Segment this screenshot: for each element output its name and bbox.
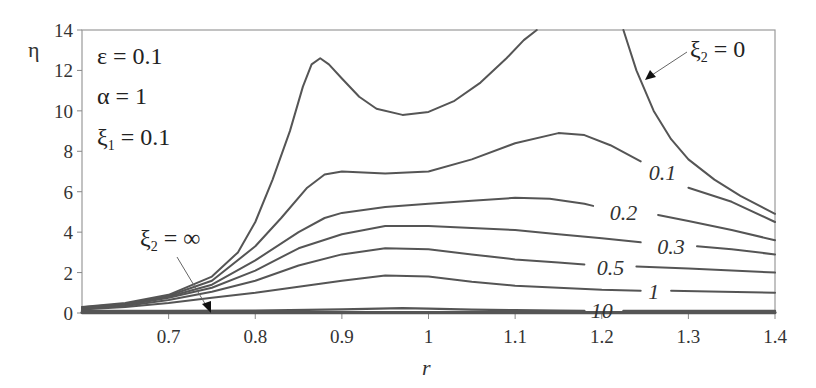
curve-label-1: 1: [648, 279, 659, 304]
curve-label-0.2: 0.2: [610, 200, 638, 225]
curve-label-0.1: 0.1: [649, 160, 677, 185]
chart: 02468101214 0.70.80.911.11.21.31.4 0.10.…: [0, 0, 816, 388]
curve-label-0.5: 0.5: [597, 255, 625, 280]
annot-zero-subscript: 2: [701, 50, 708, 65]
svg-text:ξ2 = ∞: ξ2 = ∞: [140, 225, 200, 254]
y-tick-label: 2: [64, 263, 74, 284]
x-tick-label: 1.1: [503, 326, 527, 347]
x-tick-label: 0.9: [330, 326, 354, 347]
x-tick-label: 0.7: [157, 326, 181, 347]
annot-inf-value: = ∞: [158, 225, 201, 251]
annot-zero-value: = 0: [708, 36, 746, 62]
x-tick-label: 0.8: [243, 326, 267, 347]
annot-inf-subscript: 2: [151, 239, 158, 254]
y-axis-label: η: [28, 37, 40, 62]
annot-inf-symbol: ξ: [140, 225, 151, 251]
y-tick-label: 8: [64, 141, 74, 162]
param-xi1-subscript: 1: [108, 138, 115, 153]
x-tick-label: 1: [424, 326, 434, 347]
y-tick-label: 12: [54, 60, 73, 81]
y-tick-label: 4: [64, 222, 74, 243]
param-xi1-value: = 0.1: [115, 124, 171, 150]
x-tick-label: 1.2: [590, 326, 614, 347]
y-tick-label: 14: [54, 20, 74, 41]
annot-zero-symbol: ξ: [690, 36, 701, 62]
annot-zero-arrow-line: [652, 52, 687, 75]
param-xi1: ξ1 = 0.1: [97, 124, 170, 153]
param-xi1-symbol: ξ: [97, 124, 108, 150]
param-epsilon: ε = 0.1: [97, 43, 163, 69]
y-tick-label: 6: [64, 182, 74, 203]
y-tick-label: 0: [64, 303, 74, 324]
svg-text:ξ2 = 0: ξ2 = 0: [690, 36, 745, 65]
x-tick-label: 1.4: [763, 326, 787, 347]
x-axis-label: r: [422, 355, 431, 380]
curve-label-10: 10: [591, 298, 613, 323]
y-axis-ticks: 02468101214: [54, 20, 82, 324]
curve-label-0.3: 0.3: [657, 234, 685, 259]
x-axis-ticks: 0.70.80.911.11.21.31.4: [157, 313, 788, 347]
annotation-xi2-zero: ξ2 = 0: [645, 36, 745, 80]
x-tick-label: 1.3: [677, 326, 701, 347]
curve-xi2-10: [82, 308, 775, 311]
y-tick-label: 10: [54, 101, 73, 122]
param-alpha: α = 1: [97, 83, 147, 109]
annot-zero-arrowhead: [645, 70, 656, 80]
